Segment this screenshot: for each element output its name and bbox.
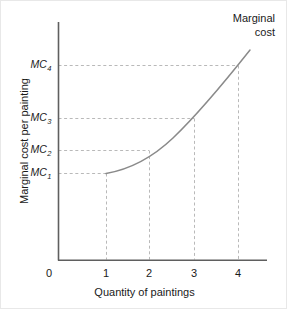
x-tick-label-2: 2 (138, 267, 160, 279)
x-tick-label-3: 3 (183, 267, 205, 279)
marginal-cost-chart-figure: Marginal cost per painting MC4 MC3 MC2 M… (0, 0, 287, 309)
y-tick-label-mc3-base: MC (30, 111, 46, 123)
marginal-cost-curve-label-line1: Marginal (185, 12, 275, 26)
y-tick-label-mc2-sub: 2 (47, 149, 51, 158)
y-axis-title: Marginal cost per painting (18, 78, 30, 204)
guide-lines-group (59, 66, 239, 260)
x-tick-label-0: 0 (38, 267, 60, 279)
x-tick-label-4: 4 (227, 267, 249, 279)
y-tick-label-mc1-sub: 1 (47, 172, 51, 181)
y-tick-label-mc4: MC4 (5, 59, 51, 71)
y-tick-label-mc3: MC3 (5, 112, 51, 124)
y-axis-title-wrapper: Marginal cost per painting (1, 1, 25, 261)
marginal-cost-curve-label: Marginal cost (185, 12, 275, 40)
x-tick-label-1: 1 (95, 267, 117, 279)
y-tick-label-mc2: MC2 (5, 144, 51, 156)
marginal-cost-curve-label-line2: cost (185, 26, 275, 40)
y-tick-label-mc1: MC1 (5, 167, 51, 179)
y-tick-label-mc3-sub: 3 (47, 117, 51, 126)
y-tick-label-mc4-base: MC (30, 58, 46, 70)
y-tick-label-mc2-base: MC (30, 143, 46, 155)
marginal-cost-curve (106, 50, 250, 174)
y-tick-label-mc1-base: MC (30, 166, 46, 178)
x-axis-title: Quantity of paintings (1, 286, 287, 298)
y-tick-label-mc4-sub: 4 (47, 64, 51, 73)
